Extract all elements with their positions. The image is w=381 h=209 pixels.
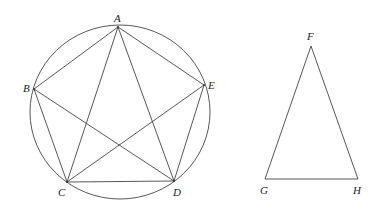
- side-DE: [174, 85, 204, 181]
- vertex-B: [33, 88, 35, 90]
- side-FG: [265, 46, 311, 179]
- label-E: E: [207, 79, 215, 91]
- diagonal-CE: [67, 85, 204, 182]
- pentagon-sides: [34, 27, 204, 182]
- diagonal-AC: [67, 27, 118, 182]
- vertex-D: [173, 180, 175, 182]
- side-FH: [311, 46, 358, 179]
- diagonal-BD: [34, 89, 174, 181]
- vertex-E: [203, 84, 205, 86]
- label-C: C: [58, 186, 66, 198]
- isosceles-triangle: [265, 46, 358, 179]
- label-A: A: [113, 12, 121, 24]
- side-CD: [67, 181, 174, 182]
- vertex-A: [117, 26, 119, 28]
- side-BC: [34, 89, 67, 182]
- label-D: D: [172, 186, 181, 198]
- vertex-C: [66, 181, 68, 183]
- label-F: F: [306, 30, 314, 42]
- pentagon-diagonals: [34, 27, 204, 182]
- label-H: H: [352, 184, 362, 196]
- diagonal-AD: [118, 27, 174, 181]
- side-EA: [118, 27, 204, 85]
- label-G: G: [260, 184, 268, 196]
- label-B: B: [23, 82, 30, 94]
- circumscribed-circle: [30, 25, 210, 199]
- euclid-diagram: A B C D E F G H: [0, 0, 381, 209]
